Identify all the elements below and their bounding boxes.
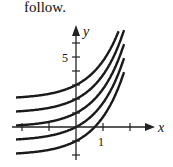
x-tick-label-1: 1 bbox=[98, 135, 104, 149]
y-axis-label: y bbox=[81, 24, 90, 39]
y-tick-label-5: 5 bbox=[62, 51, 68, 65]
curve-C=0 bbox=[16, 44, 124, 125]
x-axis-label: x bbox=[157, 120, 165, 135]
curve-C=-2 bbox=[16, 72, 124, 153]
x-axis-arrow-icon bbox=[145, 123, 155, 131]
curve-family bbox=[16, 30, 124, 153]
exponential-family-plot: x y 1 5 bbox=[0, 0, 173, 167]
curve-C=1 bbox=[16, 30, 124, 111]
y-axis-arrow-icon bbox=[72, 25, 80, 36]
